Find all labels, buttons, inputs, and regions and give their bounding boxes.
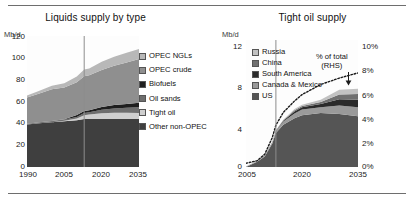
legend-swatch-icon (252, 71, 259, 78)
right-chart-title: Tight oil supply (209, 12, 414, 23)
legend-label: OPEC crude (149, 66, 192, 74)
legend-label: Russia (262, 48, 285, 56)
area-us (246, 113, 358, 167)
left-chart-plot-area (27, 36, 139, 167)
right-xtick-2020: 2020 (287, 171, 317, 179)
bottom-divider-rule (8, 193, 406, 194)
right-xtick-2035: 2035 (343, 171, 373, 179)
legend-label: Biofuels (149, 80, 176, 88)
area-other-non-opec (27, 119, 139, 167)
right-y2tick-6pct: 6% (362, 92, 386, 100)
left-ytick-20: 20 (3, 141, 25, 149)
legend-item-oil-sands[interactable]: Oil sands (139, 95, 207, 103)
legend-swatch-icon (252, 60, 259, 67)
legend-item-canada-mexico[interactable]: Canada & Mexico (252, 81, 322, 89)
left-xtick-2020: 2020 (86, 171, 116, 179)
right-ytick-8: 8 (220, 84, 242, 92)
pct-of-total-annotation: % of total (RHS) (316, 52, 348, 70)
legend-label: Other non-OPEC (149, 123, 207, 131)
legend-swatch-icon (139, 123, 146, 130)
pct-annotation-line1: % of total (316, 52, 348, 61)
legend-swatch-icon (139, 81, 146, 88)
pct-annotation-arrow-icon (344, 72, 353, 86)
left-ytick-80: 80 (3, 76, 25, 84)
right-y2tick-2pct: 2% (362, 140, 386, 148)
right-y2tick-10pct: 10% (362, 43, 386, 51)
legend-label: Tight oil (149, 109, 175, 117)
legend-swatch-icon (252, 82, 259, 89)
legend-item-tight-oil[interactable]: Tight oil (139, 109, 207, 117)
left-stacked-area-svg (27, 36, 139, 167)
right-ytick-4: 4 (220, 126, 242, 134)
legend-swatch-icon (139, 95, 146, 102)
legend-item-russia[interactable]: Russia (252, 48, 322, 56)
left-xtick-2035: 2035 (123, 171, 153, 179)
right-y-axis-unit: Mb/d (222, 30, 239, 39)
pct-annotation-line2: (RHS) (316, 61, 348, 70)
left-chart-legend: OPEC NGLs OPEC crude Biofuels Oil sands … (139, 52, 207, 137)
legend-item-other-non-opec[interactable]: Other non-OPEC (139, 123, 207, 131)
left-xtick-1990: 1990 (13, 171, 43, 179)
left-ytick-120: 120 (3, 33, 25, 41)
top-divider-rule (8, 5, 406, 6)
right-chart-legend: Russia China South America Canada & Mexi… (252, 48, 322, 103)
legend-label: OPEC NGLs (149, 52, 192, 60)
left-ytick-60: 60 (3, 98, 25, 106)
right-y2tick-4pct: 4% (362, 116, 386, 124)
right-xtick-2005: 2005 (232, 171, 262, 179)
legend-label: China (262, 59, 282, 67)
legend-item-us[interactable]: US (252, 92, 322, 100)
legend-item-biofuels[interactable]: Biofuels (139, 80, 207, 88)
legend-label: Canada & Mexico (262, 81, 322, 89)
right-ytick-12: 12 (220, 43, 242, 51)
left-xtick-2005: 2005 (49, 171, 79, 179)
left-chart-title: Liquids supply by type (0, 12, 199, 23)
legend-swatch-icon (252, 49, 259, 56)
left-ytick-40: 40 (3, 119, 25, 127)
legend-swatch-icon (139, 109, 146, 116)
legend-item-opec-crude[interactable]: OPEC crude (139, 66, 207, 74)
right-y2tick-8pct: 8% (362, 67, 386, 75)
legend-swatch-icon (252, 93, 259, 100)
legend-item-opec-ngls[interactable]: OPEC NGLs (139, 52, 207, 60)
legend-swatch-icon (139, 53, 146, 60)
legend-swatch-icon (139, 67, 146, 74)
legend-label: US (262, 92, 273, 100)
legend-item-south-america[interactable]: South America (252, 70, 322, 78)
legend-label: South America (262, 70, 311, 78)
legend-item-china[interactable]: China (252, 59, 322, 67)
legend-label: Oil sands (149, 95, 181, 103)
left-ytick-100: 100 (3, 54, 25, 62)
